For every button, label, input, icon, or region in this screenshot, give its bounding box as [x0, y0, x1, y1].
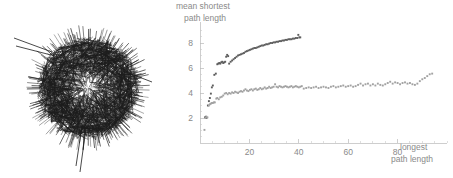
data-point — [296, 37, 298, 39]
data-point — [345, 86, 347, 88]
data-point — [424, 77, 426, 79]
data-point — [318, 87, 320, 89]
data-point — [429, 73, 431, 75]
data-point — [214, 101, 216, 103]
data-point — [206, 116, 208, 118]
data-point — [369, 85, 371, 87]
data-point — [228, 63, 230, 65]
axes: 204060802468 — [188, 22, 447, 157]
data-point — [301, 85, 303, 87]
data-points — [204, 34, 434, 131]
data-point — [299, 36, 301, 38]
x-tick-label: 60 — [343, 147, 353, 157]
data-point — [274, 83, 276, 85]
data-point — [204, 129, 206, 131]
data-point — [426, 75, 428, 77]
y-axis-title-line2: path length — [184, 13, 226, 23]
data-point — [215, 73, 217, 75]
data-point — [387, 82, 389, 84]
network-tendril-2 — [14, 38, 52, 52]
data-point — [310, 87, 312, 89]
data-point — [210, 93, 212, 95]
data-point — [394, 81, 396, 83]
data-point — [367, 83, 369, 85]
y-axis-title-line1: mean shortest — [176, 1, 230, 11]
data-point — [357, 84, 359, 86]
scatter-chart-panel: mean shortest path length longest path l… — [175, 0, 453, 178]
data-point — [211, 86, 213, 88]
data-point — [313, 86, 315, 88]
data-point — [325, 86, 327, 88]
network-graph — [0, 0, 175, 178]
data-point — [218, 98, 220, 100]
data-point — [362, 85, 364, 87]
data-point — [273, 86, 275, 88]
y-tick-label: 8 — [188, 38, 193, 48]
data-point — [402, 82, 404, 84]
data-point — [342, 85, 344, 87]
data-point — [389, 81, 391, 83]
data-point — [416, 83, 418, 85]
data-point — [365, 83, 367, 85]
figure-root: mean shortest path length longest path l… — [0, 0, 453, 178]
x-axis-title-line1: longest — [400, 142, 428, 152]
data-point — [332, 85, 334, 87]
scatter-chart: mean shortest path length longest path l… — [175, 0, 453, 178]
data-point — [352, 86, 354, 88]
data-point — [384, 83, 386, 85]
x-tick-label: 20 — [245, 147, 255, 157]
data-point — [407, 83, 409, 85]
data-point — [347, 85, 349, 87]
series-upper-series — [204, 34, 301, 119]
data-point — [397, 82, 399, 84]
data-point — [374, 85, 376, 87]
data-point — [315, 86, 317, 88]
data-point — [297, 34, 299, 36]
data-point — [431, 73, 433, 75]
data-point — [227, 55, 229, 57]
data-point — [308, 86, 310, 88]
data-point — [382, 85, 384, 87]
data-point — [421, 78, 423, 80]
data-point — [399, 83, 401, 85]
network-graph-panel — [0, 0, 175, 178]
y-tick-label: 2 — [188, 113, 193, 123]
data-point — [323, 86, 325, 88]
data-point — [335, 86, 337, 88]
data-point — [414, 84, 416, 86]
data-point — [320, 86, 322, 88]
data-point — [379, 84, 381, 86]
data-point — [305, 87, 307, 89]
data-point — [224, 61, 226, 63]
data-point — [222, 95, 224, 97]
x-tick-label: 40 — [294, 147, 304, 157]
data-point — [330, 86, 332, 88]
data-point — [355, 85, 357, 87]
y-tick-label: 4 — [188, 88, 193, 98]
data-point — [327, 87, 329, 89]
data-point — [360, 83, 362, 85]
x-tick-label: 80 — [393, 147, 403, 157]
series-lower-series — [204, 73, 434, 131]
data-point — [411, 83, 413, 85]
data-point — [209, 97, 211, 99]
data-point — [419, 80, 421, 82]
data-point — [208, 100, 210, 102]
data-point — [340, 85, 342, 87]
data-point — [350, 85, 352, 87]
y-tick-label: 6 — [188, 63, 193, 73]
network-edges — [14, 25, 152, 172]
data-point — [303, 88, 305, 90]
data-point — [377, 83, 379, 85]
data-point — [372, 83, 374, 85]
data-point — [404, 81, 406, 83]
data-point — [392, 83, 394, 85]
data-point — [225, 56, 227, 58]
data-point — [409, 82, 411, 84]
data-point — [337, 86, 339, 88]
data-point — [212, 85, 214, 87]
